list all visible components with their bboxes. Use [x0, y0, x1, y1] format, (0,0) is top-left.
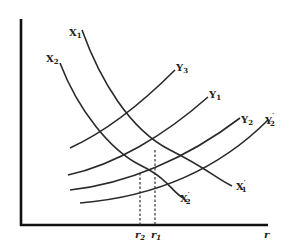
label-y2-prime: Y′2 — [264, 111, 275, 128]
label-y2: Y2 — [240, 114, 253, 127]
x-axis-label: r — [264, 229, 270, 240]
curve-x1 — [82, 30, 232, 186]
label-x1-prime: X′1 — [236, 178, 247, 194]
label-y3: Y3 — [175, 62, 188, 75]
label-x2-prime: X′2 — [180, 190, 191, 206]
tick-r2: r2 — [135, 229, 145, 242]
tick-r1: r1 — [151, 229, 161, 242]
label-x1: X1 — [69, 27, 82, 40]
curve-diagram: X1 X2 Y3 Y1 Y2 Y′2 X′1 X′2 r2 r1 r — [0, 0, 291, 249]
label-y1: Y1 — [208, 89, 221, 102]
label-x2: X2 — [46, 53, 59, 66]
